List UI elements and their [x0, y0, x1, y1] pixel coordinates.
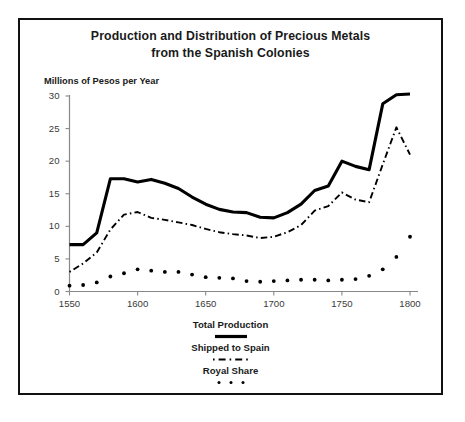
y-tick-label: 0 [36, 286, 60, 297]
y-tick-label: 25 [36, 123, 60, 134]
y-tick-label: 15 [36, 188, 60, 199]
chart-legend: Total Production Shipped to Spain Royal … [18, 318, 443, 387]
x-tick-label: 1750 [322, 298, 362, 309]
legend-swatch-royal-share [18, 377, 443, 386]
y-tick-label: 20 [36, 155, 60, 166]
legend-swatch-total-production [18, 331, 443, 340]
x-tick-label: 1550 [50, 298, 90, 309]
y-tick-label: 30 [36, 90, 60, 101]
legend-label-shipped-to-spain: Shipped to Spain [18, 341, 443, 354]
legend-label-total-production: Total Production [18, 318, 443, 331]
legend-item-royal-share: Royal Share [18, 364, 443, 386]
y-tick-label: 10 [36, 220, 60, 231]
legend-swatch-shipped-to-spain [18, 354, 443, 363]
legend-item-total-production: Total Production [18, 318, 443, 340]
y-tick-label: 5 [36, 253, 60, 264]
x-tick-label: 1800 [390, 298, 430, 309]
x-tick-label: 1650 [186, 298, 226, 309]
figure: Production and Distribution of Precious … [0, 0, 465, 422]
chart-axes [66, 95, 419, 296]
x-tick-label: 1600 [118, 298, 158, 309]
x-tick-label: 1700 [254, 298, 294, 309]
legend-item-shipped-to-spain: Shipped to Spain [18, 341, 443, 363]
chart-series [68, 94, 412, 287]
legend-label-royal-share: Royal Share [18, 364, 443, 377]
